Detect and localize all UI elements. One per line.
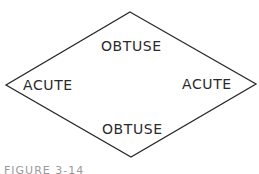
bottom-angle-label: OBTUSE bbox=[102, 122, 163, 136]
figure-caption: FIGURE 3-14 bbox=[4, 164, 84, 174]
top-angle-label: OBTUSE bbox=[101, 39, 162, 53]
left-angle-label: ACUTE bbox=[23, 78, 73, 92]
right-angle-label: ACUTE bbox=[182, 77, 232, 91]
